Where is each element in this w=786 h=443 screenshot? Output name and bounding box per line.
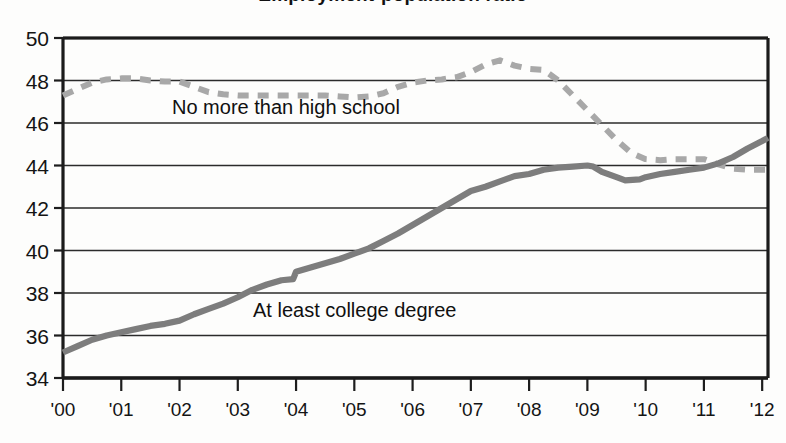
chart-plot-area [0,0,786,443]
x-tick-label: '03 [210,400,266,419]
x-tick-label: '01 [93,400,149,419]
gridlines [63,38,768,378]
x-tick-label: '05 [326,400,382,419]
y-tick-label: 38 [5,283,49,304]
x-tick-label: '06 [385,400,441,419]
x-tick-label: '00 [35,400,91,419]
y-tick-label: 46 [5,113,49,134]
y-tick-label: 50 [5,28,49,49]
y-tick-label: 42 [5,198,49,219]
y-tick-label: 36 [5,326,49,347]
y-tick-label: 48 [5,71,49,92]
y-tick-label: 40 [5,241,49,262]
chart-figure: Employment-population ratio 343638404244… [0,0,786,443]
y-tick-label: 44 [5,156,49,177]
x-tick-label: '07 [443,400,499,419]
series-line-high-school [63,60,768,169]
x-tick-label: '10 [618,400,674,419]
y-tick-label: 34 [5,368,49,389]
x-axis-ticks [63,378,762,391]
series-label-at-least-college-degree: At least college degree [253,300,456,320]
x-tick-label: '12 [734,400,786,419]
x-tick-label: '09 [559,400,615,419]
series-label-no-more-than-high-school: No more than high school [172,97,400,117]
x-tick-label: '08 [501,400,557,419]
x-tick-label: '02 [152,400,208,419]
x-tick-label: '11 [676,400,732,419]
x-tick-label: '04 [268,400,324,419]
